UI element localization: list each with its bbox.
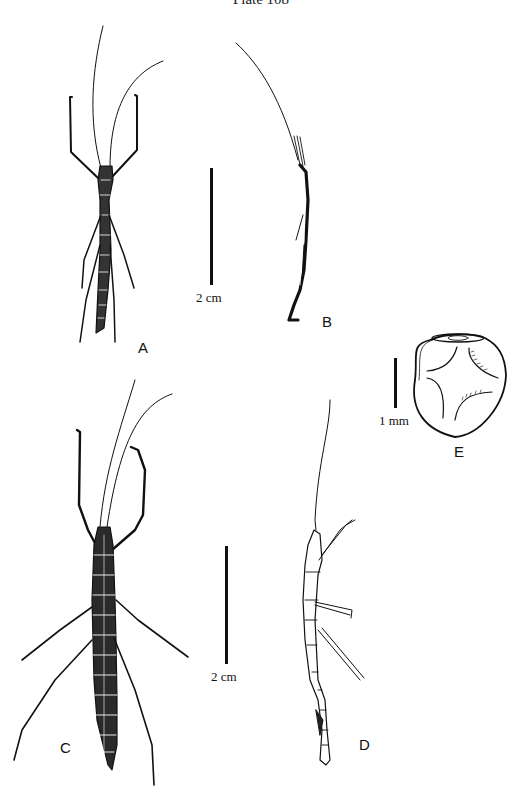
scale-bar-e bbox=[394, 358, 397, 408]
figure-label-b: B bbox=[322, 313, 332, 330]
figure-label-c: C bbox=[60, 739, 71, 756]
plate-drawings bbox=[0, 0, 522, 800]
scale-bar-a-b bbox=[210, 168, 213, 285]
scale-label-e: 1 mm bbox=[379, 413, 409, 429]
figure-label-a: A bbox=[138, 339, 148, 356]
figure-label-d: D bbox=[359, 736, 370, 753]
scale-label-c-d: 2 cm bbox=[211, 669, 237, 685]
scale-bar-c-d bbox=[225, 546, 228, 664]
figure-c-drawing bbox=[14, 380, 188, 785]
scale-label-a-b: 2 cm bbox=[196, 290, 222, 306]
figure-label-e: E bbox=[454, 443, 464, 460]
figure-e-drawing bbox=[414, 334, 506, 437]
figure-b-drawing bbox=[236, 43, 308, 320]
figure-a-drawing bbox=[70, 26, 163, 342]
figure-d-drawing bbox=[303, 400, 364, 765]
